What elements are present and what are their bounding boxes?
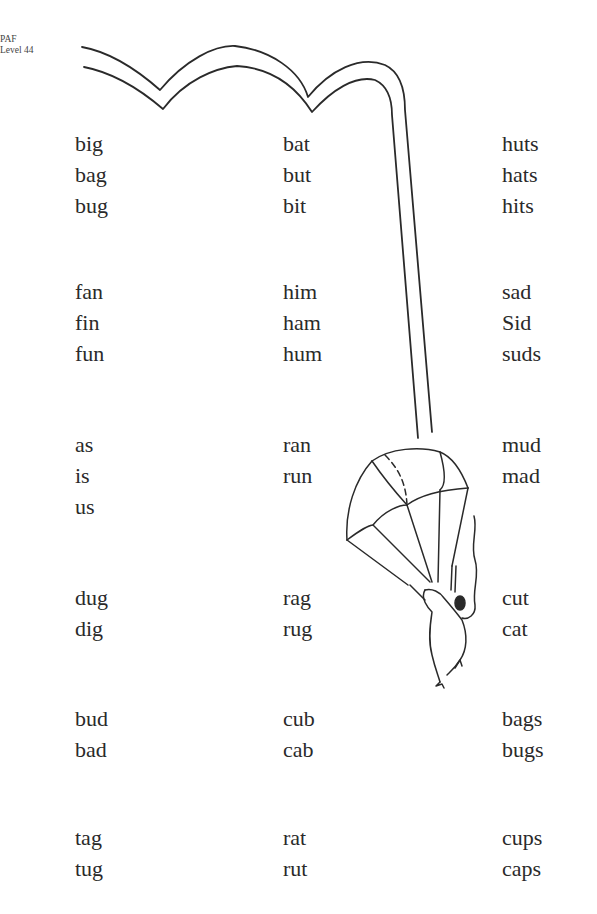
word-item: cups — [502, 822, 542, 853]
word-item: fun — [75, 338, 104, 369]
word-item: hits — [502, 190, 534, 221]
word-item: bugs — [502, 734, 544, 765]
word-item: fin — [75, 307, 99, 338]
word-item: sad — [502, 276, 531, 307]
program-label: PAF — [0, 34, 34, 45]
word-item: fan — [75, 276, 103, 307]
word-item: is — [75, 460, 90, 491]
word-item: dug — [75, 582, 108, 613]
word-item: bud — [75, 703, 108, 734]
word-item: bags — [502, 703, 542, 734]
word-item: rat — [283, 822, 306, 853]
word-item: tug — [75, 853, 103, 884]
word-item: but — [283, 159, 311, 190]
word-item: him — [283, 276, 317, 307]
word-item: bug — [75, 190, 108, 221]
word-item: mad — [502, 460, 540, 491]
mouse-icon — [410, 516, 477, 688]
word-item: Sid — [502, 307, 531, 338]
word-item: hats — [502, 159, 537, 190]
word-item: cub — [283, 703, 315, 734]
word-item: mud — [502, 429, 541, 460]
word-item: rag — [283, 582, 311, 613]
word-item: big — [75, 128, 103, 159]
word-item: cab — [283, 734, 314, 765]
string-line-icon — [82, 46, 432, 438]
word-item: dig — [75, 613, 103, 644]
word-item: run — [283, 460, 312, 491]
word-item: bad — [75, 734, 107, 765]
word-item: rut — [283, 853, 307, 884]
word-item: ham — [283, 307, 321, 338]
word-item: bat — [283, 128, 310, 159]
word-item: bag — [75, 159, 107, 190]
level-label: Level 44 — [0, 45, 34, 56]
level-header: PAF Level 44 — [0, 34, 34, 56]
word-item: rug — [283, 613, 312, 644]
parachute-icon — [347, 449, 468, 585]
word-item: caps — [502, 853, 541, 884]
word-item: suds — [502, 338, 541, 369]
word-item: huts — [502, 128, 539, 159]
word-item: ran — [283, 429, 311, 460]
word-item: cat — [502, 613, 528, 644]
word-item: as — [75, 429, 93, 460]
word-item: us — [75, 491, 95, 522]
word-item: hum — [283, 338, 322, 369]
word-item: tag — [75, 822, 102, 853]
word-item: cut — [502, 582, 529, 613]
word-item: bit — [283, 190, 306, 221]
